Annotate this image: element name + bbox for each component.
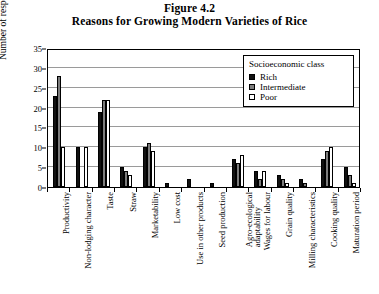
bar-group [48, 50, 70, 187]
bar-group [93, 50, 115, 187]
y-tick-label: 20 [18, 104, 42, 113]
x-tick-label: Taste [106, 192, 115, 210]
bar [240, 155, 244, 187]
y-tick-mark [42, 188, 46, 189]
bar [61, 147, 65, 187]
bar [303, 183, 307, 187]
x-tick-label: Wages for labour [263, 192, 272, 250]
y-tick-label: 10 [18, 144, 42, 153]
figure-title-block: Figure 4.2 Reasons for Growing Modern Va… [0, 2, 379, 28]
legend-label: Intermediate [260, 82, 305, 92]
bar [285, 183, 289, 187]
x-tick-label: Agro-ecologicaladaptability [245, 192, 262, 247]
legend-swatch [249, 94, 255, 100]
y-tick-label: 5 [18, 164, 42, 173]
bar-group [205, 50, 227, 187]
bar [106, 100, 110, 187]
bar [262, 171, 266, 187]
x-tick-label: Use in other products [196, 192, 205, 265]
legend-entry: Rich [249, 72, 349, 82]
y-axis-tick-labels: 05101520253035 [18, 43, 46, 195]
figure-chart: Figure 4.2 Reasons for Growing Modern Va… [0, 0, 379, 294]
x-tick-label: Non-lodging character [84, 192, 93, 269]
legend-entry: Poor [249, 92, 349, 102]
bar [329, 147, 333, 187]
legend: Socioeconomic class RichIntermediatePoor [243, 55, 354, 107]
bar [187, 179, 191, 187]
bar [165, 183, 169, 187]
legend-title: Socioeconomic class [249, 59, 349, 70]
bar-group [115, 50, 137, 187]
y-tick-mark [42, 128, 46, 129]
y-tick-label: 15 [18, 124, 42, 133]
x-tick-label: Productivity [62, 192, 71, 234]
bar-group [182, 50, 204, 187]
y-tick-mark [42, 168, 46, 169]
bar [84, 147, 88, 187]
y-tick-mark [42, 49, 46, 50]
legend-entry: Intermediate [249, 82, 349, 92]
legend-label: Poor [260, 92, 277, 102]
x-tick-label: Grain quality [285, 192, 294, 237]
legend-swatch [249, 74, 255, 80]
bar-group [160, 50, 182, 187]
y-tick-label: 0 [18, 184, 42, 193]
y-tick-mark [42, 68, 46, 69]
legend-entries: RichIntermediatePoor [249, 72, 349, 102]
y-axis-title: Number of respondents [0, 0, 8, 60]
x-tick-label: Low cost [173, 192, 182, 223]
y-tick-label: 25 [18, 84, 42, 93]
bar [352, 183, 356, 187]
y-tick-label: 35 [18, 45, 42, 54]
bar-group [70, 50, 92, 187]
x-tick-label: Seed production [218, 192, 227, 247]
y-tick-mark [42, 88, 46, 89]
x-tick-label: Maturation period [352, 192, 361, 254]
x-tick-label: Straw [129, 192, 138, 212]
figure-number: Figure 4.2 [0, 2, 379, 15]
x-tick-label: Milling characteristics [308, 192, 317, 268]
x-tick-mark [47, 188, 48, 192]
y-tick-mark [42, 108, 46, 109]
bar [210, 183, 214, 187]
bar [151, 151, 155, 187]
x-tick-label: Marketability [151, 192, 160, 238]
bar-group [137, 50, 159, 187]
legend-swatch [249, 84, 255, 90]
y-tick-mark [42, 148, 46, 149]
bar [128, 175, 132, 187]
bar [76, 147, 80, 187]
x-tick-label: Cooking quality [330, 192, 339, 247]
page-title: Reasons for Growing Modern Varieties of … [0, 15, 379, 28]
y-tick-label: 30 [18, 64, 42, 73]
legend-label: Rich [260, 72, 277, 82]
